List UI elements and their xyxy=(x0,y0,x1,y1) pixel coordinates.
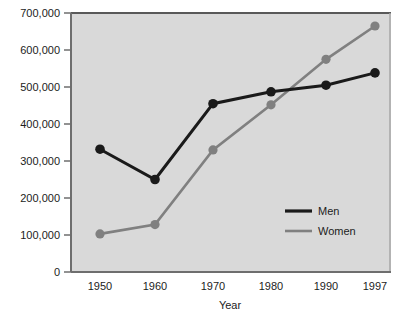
men-point-1997 xyxy=(370,68,380,78)
x-tick-label: 1960 xyxy=(143,280,167,292)
women-point-1970 xyxy=(208,145,217,154)
women-point-1997 xyxy=(370,21,379,30)
y-tick-label: 400,000 xyxy=(20,118,60,130)
men-point-1980 xyxy=(266,87,276,97)
y-tick-label: 700,000 xyxy=(20,7,60,19)
y-axis-ticks xyxy=(64,13,71,272)
y-tick-label: 200,000 xyxy=(20,192,60,204)
x-tick-label: 1950 xyxy=(88,280,112,292)
legend-label-men: Men xyxy=(318,205,339,217)
x-tick-label: 1980 xyxy=(259,280,283,292)
x-tick-label: 1997 xyxy=(363,280,387,292)
men-point-1960 xyxy=(150,175,160,185)
x-axis-title: Year xyxy=(219,299,242,311)
y-tick-label: 100,000 xyxy=(20,229,60,241)
x-tick-label: 1970 xyxy=(201,280,225,292)
y-tick-label: 300,000 xyxy=(20,155,60,167)
chart-figure: 700,000 600,000 500,000 400,000 300,000 … xyxy=(0,0,418,315)
x-axis-tick-labels: 1950 1960 1970 1980 1990 1997 xyxy=(88,280,387,292)
line-chart: 700,000 600,000 500,000 400,000 300,000 … xyxy=(0,0,418,315)
men-point-1950 xyxy=(95,144,105,154)
chart-title xyxy=(0,0,418,2)
women-point-1950 xyxy=(95,229,104,238)
men-point-1990 xyxy=(321,80,331,90)
women-point-1980 xyxy=(266,100,275,109)
x-tick-label: 1990 xyxy=(314,280,338,292)
women-point-1990 xyxy=(321,55,330,64)
y-tick-label: 500,000 xyxy=(20,81,60,93)
men-point-1970 xyxy=(208,99,218,109)
y-axis-tick-labels: 700,000 600,000 500,000 400,000 300,000 … xyxy=(20,7,60,278)
y-tick-label: 0 xyxy=(54,266,60,278)
women-point-1960 xyxy=(150,220,159,229)
y-tick-label: 600,000 xyxy=(20,44,60,56)
legend-label-women: Women xyxy=(318,225,356,237)
